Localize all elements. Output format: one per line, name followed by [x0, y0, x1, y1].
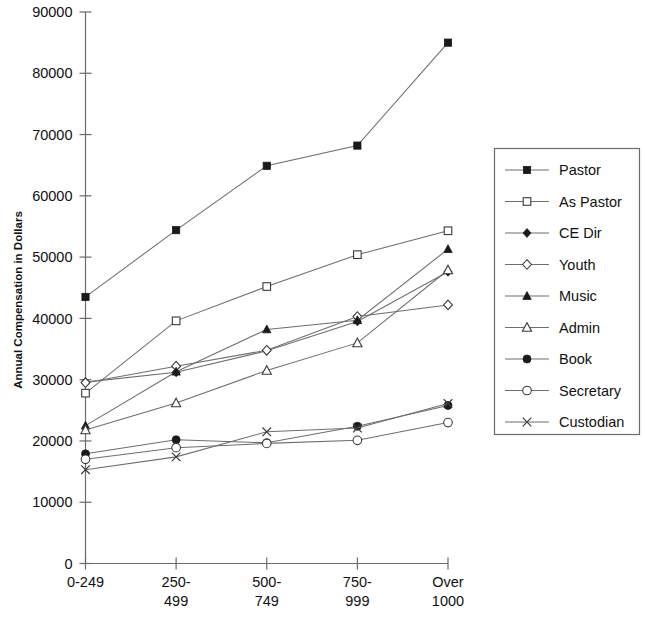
y-tick-label: 70000 [32, 127, 72, 143]
x-tick-label: 500- [252, 574, 281, 590]
y-tick-label: 40000 [32, 311, 72, 327]
marker-open-diamond [444, 300, 453, 310]
legend-item-label: As Pastor [559, 194, 622, 210]
marker-filled-circle [444, 401, 452, 409]
marker-open-square [444, 227, 452, 235]
legend: PastorAs PastorCE DirYouthMusicAdminBook… [495, 149, 640, 435]
y-tick-label: 50000 [32, 249, 72, 265]
marker-open-circle [81, 455, 90, 464]
legend-item-label: CE Dir [559, 225, 602, 241]
marker-filled-square [82, 293, 89, 300]
marker-filled-circle [172, 436, 180, 444]
y-tick-label: 10000 [32, 494, 72, 510]
x-tick-label: Over [432, 574, 464, 590]
marker-filled-square [354, 142, 361, 149]
marker-open-diamond [262, 345, 271, 355]
marker-filled-circle [353, 422, 361, 430]
x-axis-ticks: 0-249250-499500-749750-999Over1000 [67, 558, 464, 609]
x-tick-label: 1000 [432, 593, 464, 609]
y-tick-label: 30000 [32, 372, 72, 388]
series-music [81, 245, 452, 429]
series-polyline [86, 249, 449, 425]
y-tick-label: 20000 [32, 433, 72, 449]
legend-item-label: Youth [559, 257, 596, 273]
marker-open-square [263, 283, 271, 291]
marker-open-square [82, 389, 90, 397]
series-layer [81, 39, 453, 474]
x-tick-label: 750- [343, 574, 372, 590]
marker-open-circle [353, 436, 362, 445]
marker-filled-square [173, 227, 180, 234]
line-chart: Annual Compensation in Dollars 010000200… [0, 0, 645, 626]
marker-open-square [523, 198, 531, 206]
marker-open-circle [444, 418, 453, 427]
marker-open-square [172, 317, 180, 325]
marker-open-circle [172, 443, 181, 452]
legend-item-label: Music [559, 288, 597, 304]
marker-filled-square [263, 162, 270, 169]
legend-item-label: Custodian [559, 414, 624, 430]
series-book [82, 401, 453, 457]
series-secretary [81, 418, 452, 463]
series-custodian [81, 399, 452, 474]
marker-filled-square [523, 166, 530, 173]
x-tick-label: 250- [162, 574, 191, 590]
marker-open-triangle [353, 338, 362, 347]
marker-open-triangle [443, 265, 452, 274]
x-tick-label: 749 [255, 593, 279, 609]
y-axis-label: Annual Compensation in Dollars [12, 211, 24, 389]
chart-container: Annual Compensation in Dollars 010000200… [0, 0, 645, 626]
legend-item-label: Admin [559, 320, 600, 336]
marker-filled-triangle [444, 245, 452, 253]
y-tick-label: 90000 [32, 4, 72, 20]
x-tick-label: 999 [345, 593, 369, 609]
legend-item-label: Book [559, 351, 593, 367]
marker-open-circle [523, 386, 532, 395]
y-tick-label: 0 [64, 556, 72, 572]
y-tick-label: 80000 [32, 65, 72, 81]
x-tick-label: 499 [164, 593, 188, 609]
marker-open-triangle [172, 398, 181, 407]
marker-filled-square [444, 39, 451, 46]
legend-item-label: Secretary [559, 383, 622, 399]
marker-open-circle [262, 439, 271, 448]
series-pastor [82, 39, 452, 301]
y-axis-label-text: Annual Compensation in Dollars [12, 211, 24, 389]
marker-filled-circle [523, 355, 531, 363]
marker-open-square [354, 251, 362, 259]
y-axis-ticks: 0100002000030000400005000060000700008000… [32, 4, 91, 572]
x-tick-label: 0-249 [67, 574, 104, 590]
y-tick-label: 60000 [32, 188, 72, 204]
legend-item-label: Pastor [559, 162, 601, 178]
